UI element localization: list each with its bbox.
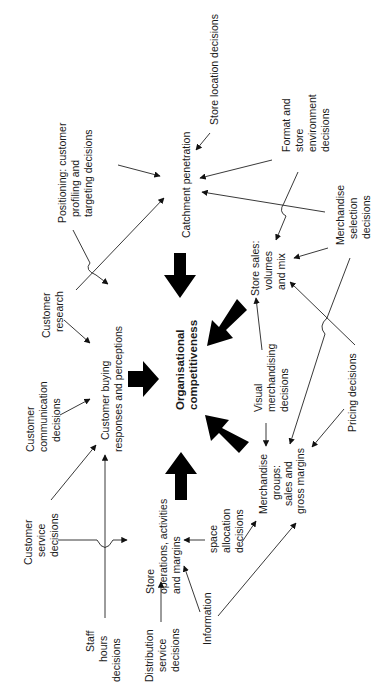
block-arrow-catchment-to-centre: [164, 253, 196, 298]
space-allocation-line3: decisions: [233, 509, 245, 553]
arrow-service-to-buying: [51, 445, 96, 500]
distribution-line1: Distribution: [143, 629, 155, 682]
format-line2: store: [293, 128, 305, 152]
catchment-label: Catchment penetration: [180, 132, 192, 238]
central-node-organisational-competitiveness: Organisational competitiveness: [174, 320, 199, 410]
distribution-line2: service: [156, 639, 168, 672]
central-label-line2: competitiveness: [187, 320, 199, 410]
store-location-label: Store location decisions: [208, 14, 220, 125]
customer-service-line1: Customer: [22, 519, 34, 565]
customer-comm-line2: communication: [37, 381, 49, 452]
staff-hours-line2: hours: [97, 636, 109, 662]
store-ops-line1: Store: [144, 569, 156, 594]
node-distribution-service: Distribution service decisions: [143, 628, 181, 682]
customer-research-line1: Customer: [40, 292, 52, 338]
visual-merch-line1: Visual: [252, 384, 264, 412]
arrow-communication-to-buying: [60, 399, 90, 415]
node-customer-service: Customer service decisions: [22, 513, 60, 565]
space-allocation-line1: space: [207, 525, 219, 553]
store-ops-line3: and margins: [170, 536, 182, 594]
customer-buying-line2: responses and perceptions: [112, 326, 124, 452]
arrow-information-to-storeops: [184, 566, 200, 612]
merch-selection-line2: selection: [347, 197, 359, 239]
node-customer-communication: Customer communication decisions: [24, 381, 62, 452]
merch-selection-line1: Merchandise: [334, 185, 346, 245]
store-sales-line1: Store sales:: [249, 241, 261, 296]
arrow-merchselection-to-storesales: [294, 248, 328, 258]
arrow-service-to-storeops: [58, 540, 127, 548]
customer-service-line2: service: [35, 524, 47, 557]
arrow-storelocation-to-catchment: [196, 133, 210, 150]
arrow-merchselection-to-catchment: [202, 192, 325, 212]
customer-research-line2: research: [53, 291, 65, 332]
customer-buying-line1: Customer buying: [99, 360, 111, 440]
node-catchment-penetration: Catchment penetration: [180, 132, 192, 238]
customer-comm-line3: decisions: [50, 398, 62, 442]
block-arrow-buying-to-centre: [128, 361, 159, 397]
block-arrow-sales-to-centre: [207, 299, 247, 346]
node-merchandise-selection: Merchandise selection decisions: [334, 185, 372, 245]
competitiveness-diagram: Organisational competitiveness Catchment…: [0, 0, 379, 695]
arrow-pricing-to-storesales: [290, 282, 355, 345]
node-format-decisions: Format and store environment decisions: [280, 94, 331, 152]
merch-selection-line3: decisions: [360, 195, 372, 239]
positioning-line1: Positioning: customer: [56, 122, 68, 223]
visual-merch-line2: merchandising: [265, 344, 277, 412]
merch-groups-line2: groups:: [270, 465, 282, 500]
node-staff-hours: Staff hours decisions: [84, 631, 122, 682]
node-pricing-decisions: Pricing decisions: [346, 353, 358, 432]
central-label-line1: Organisational: [174, 329, 186, 410]
arrow-format-to-catchment: [200, 160, 272, 178]
staff-hours-line1: Staff: [84, 631, 96, 652]
node-information: Information: [201, 592, 213, 645]
node-merchandise-groups: Merchandise groups: sales and gross marg…: [257, 448, 306, 514]
customer-service-line3: decisions: [48, 513, 60, 557]
format-line4: decisions: [319, 108, 331, 152]
customer-comm-line1: Customer: [24, 406, 36, 452]
node-store-sales: Store sales: volumes and mix: [249, 241, 287, 296]
node-space-allocation: space allocation decisions: [207, 508, 245, 553]
arrow-research-to-buying: [64, 320, 90, 343]
distribution-line3: decisions: [169, 628, 181, 672]
store-sales-line2: volumes: [262, 251, 274, 290]
node-customer-research: Customer research: [40, 291, 65, 338]
arrow-merchselection-to-merchgroups: [290, 258, 350, 444]
visual-merch-line3: decisions: [278, 368, 290, 412]
format-line1: Format and: [280, 98, 292, 152]
node-store-operations: Store operations, activities and margins: [144, 499, 182, 594]
information-label: Information: [201, 592, 213, 645]
node-visual-merchandising: Visual merchandising decisions: [252, 344, 290, 412]
arrow-visualmerch-to-storesales: [256, 298, 262, 350]
arrow-positioning-to-catchment: [118, 165, 160, 176]
space-allocation-line2: allocation: [220, 508, 232, 553]
store-sales-line3: and mix: [275, 252, 287, 290]
arrow-pricing-to-merchgroups: [312, 409, 344, 447]
node-positioning-decisions: Positioning: customer profiling and targ…: [56, 122, 94, 223]
block-arrow-storeops-to-centre: [165, 452, 197, 500]
pricing-label: Pricing decisions: [346, 353, 358, 432]
merch-groups-line4: gross margins: [294, 448, 306, 514]
store-ops-line2: operations, activities: [157, 499, 169, 594]
merch-groups-line1: Merchandise: [257, 454, 269, 514]
staff-hours-line3: decisions: [110, 638, 122, 682]
node-customer-buying: Customer buying responses and perception…: [99, 326, 124, 452]
block-arrow-merchgroups-to-centre: [205, 415, 249, 453]
node-store-location-decisions: Store location decisions: [208, 14, 220, 125]
positioning-line3: targeting decisions: [82, 129, 94, 217]
arrow-positioning-to-buying: [73, 230, 108, 284]
merch-groups-line3: sales and: [282, 461, 294, 506]
positioning-line2: profiling and: [69, 160, 81, 217]
format-line3: environment: [306, 94, 318, 152]
